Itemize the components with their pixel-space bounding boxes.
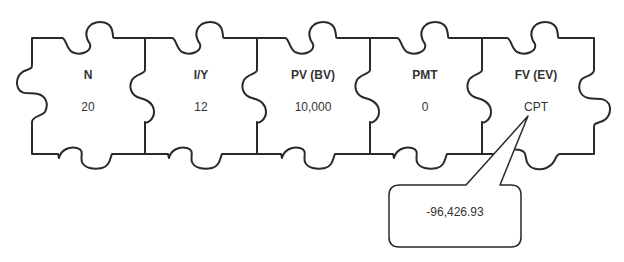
- callout-result: -96,426.93: [389, 205, 521, 219]
- piece-label-fv: FV (EV): [486, 68, 586, 82]
- piece-value-iy: 12: [151, 100, 251, 114]
- piece-label-iy: I/Y: [151, 68, 251, 82]
- puzzle-outline: [17, 22, 610, 169]
- piece-value-fv: CPT: [486, 100, 586, 114]
- piece-value-pv: 10,000: [263, 100, 363, 114]
- piece-label-n: N: [38, 68, 138, 82]
- piece-label-pv: PV (BV): [263, 68, 363, 82]
- piece-value-n: 20: [38, 100, 138, 114]
- puzzle-diagram: [0, 0, 624, 262]
- piece-label-pmt: PMT: [375, 68, 475, 82]
- piece-value-pmt: 0: [375, 100, 475, 114]
